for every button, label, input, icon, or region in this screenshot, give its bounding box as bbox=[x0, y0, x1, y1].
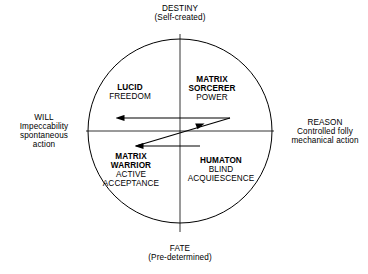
pole-label-fate: FATE (Pre-determined) bbox=[120, 245, 240, 263]
quadrant-label-humaton: HUMATON BLIND ACQUIESCENCE bbox=[176, 157, 266, 184]
reason-line3: mechanical action bbox=[282, 137, 368, 146]
quadrant-label-matrix-sorcerer: MATRIX SORCERER POWER bbox=[172, 76, 252, 103]
quadrant-label-lucid: LUCID FREEDOM bbox=[92, 84, 168, 102]
pole-label-will: WILL Impeccability spontaneous action bbox=[2, 114, 86, 149]
humaton-line3: ACQUIESCENCE bbox=[176, 175, 266, 184]
pole-label-reason: REASON Controlled folly mechanical actio… bbox=[282, 119, 368, 146]
destiny-secondary: (Self-created) bbox=[120, 14, 240, 23]
sorcerer-line3: POWER bbox=[172, 94, 252, 103]
warrior-line4: ACCEPTANCE bbox=[90, 180, 172, 189]
lucid-line2: FREEDOM bbox=[92, 93, 168, 102]
fate-secondary: (Pre-determined) bbox=[120, 254, 240, 263]
quadrant-label-matrix-warrior: MATRIX WARRIOR ACTIVE ACCEPTANCE bbox=[90, 153, 172, 188]
quadrant-diagram: DESTINY (Self-created) FATE (Pre-determi… bbox=[0, 0, 368, 274]
arrow-diagonal bbox=[136, 118, 230, 146]
will-line4: action bbox=[2, 141, 86, 150]
pole-label-destiny: DESTINY (Self-created) bbox=[120, 5, 240, 23]
